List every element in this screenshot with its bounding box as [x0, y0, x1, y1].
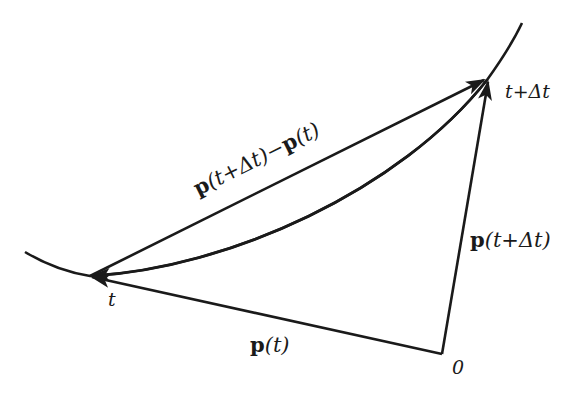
label-p-t: p(t): [250, 332, 290, 357]
label-diff-arg-1: (t+Δt): [203, 143, 273, 194]
diagram-canvas: t t+Δt 0 p(t) p(t+Δt) p(t+Δt)−p(t): [0, 0, 572, 393]
label-t-plus-dt: t+Δt: [505, 80, 550, 102]
difference-vector: [90, 80, 484, 276]
label-p-t-dt-arg: (t+Δt): [485, 228, 551, 252]
label-t: t: [108, 288, 116, 310]
label-p-t-bold: p: [250, 332, 265, 357]
label-difference: p(t+Δt)−p(t): [189, 117, 324, 201]
label-p-t-dt: p(t+Δt): [470, 227, 551, 252]
label-p-t-arg: (t): [265, 333, 290, 357]
label-p-t-dt-bold: p: [470, 227, 485, 252]
label-origin: 0: [452, 356, 464, 378]
